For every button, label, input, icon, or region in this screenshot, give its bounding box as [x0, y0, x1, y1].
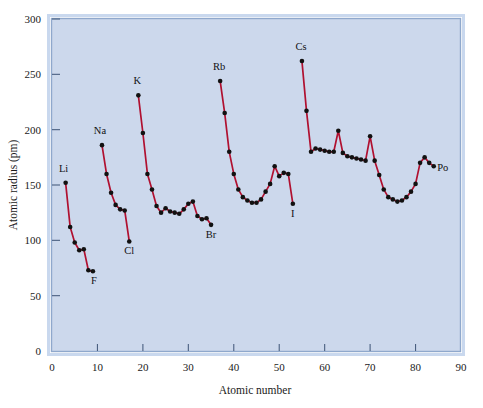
data-point — [291, 202, 296, 207]
data-point — [227, 150, 232, 155]
y-tick-label: 200 — [25, 124, 42, 136]
data-point — [186, 202, 191, 207]
data-point — [91, 269, 96, 274]
data-point — [82, 247, 87, 252]
data-point — [309, 150, 314, 155]
data-point — [286, 172, 291, 177]
element-label-Br: Br — [206, 229, 217, 240]
data-point — [327, 150, 332, 155]
data-point — [363, 158, 368, 163]
x-tick-label: 30 — [183, 361, 195, 373]
data-point — [231, 172, 236, 177]
data-point — [245, 198, 250, 203]
x-tick-label: 60 — [319, 361, 331, 373]
data-point — [377, 173, 382, 178]
data-point — [413, 182, 418, 187]
data-point — [200, 217, 205, 222]
y-tick-label: 150 — [25, 179, 42, 191]
plot-area-background — [52, 19, 461, 352]
data-point — [304, 109, 309, 114]
data-point — [204, 216, 209, 221]
data-point — [154, 204, 159, 209]
data-point — [418, 161, 423, 166]
element-label-F: F — [91, 275, 97, 286]
data-point — [118, 207, 123, 212]
data-point — [427, 161, 432, 166]
data-point — [141, 131, 146, 136]
data-point — [354, 156, 359, 161]
data-point — [177, 211, 182, 216]
element-label-Li: Li — [59, 163, 68, 174]
chart-canvas: 0102030405060708090 050100150200250300 L… — [0, 0, 483, 408]
data-point — [381, 187, 386, 192]
data-point — [191, 199, 196, 204]
data-point — [368, 134, 373, 139]
element-label-I: I — [291, 208, 295, 219]
data-point — [209, 223, 214, 228]
data-point — [281, 171, 286, 176]
data-point — [259, 197, 264, 202]
data-point — [313, 146, 318, 151]
data-point — [181, 207, 186, 212]
x-tick-label: 10 — [92, 361, 104, 373]
y-tick-label: 50 — [30, 290, 42, 302]
x-axis-title: Atomic number — [219, 384, 292, 396]
data-point — [322, 148, 327, 153]
x-tick-label: 90 — [456, 361, 468, 373]
data-point — [409, 189, 414, 194]
element-label-Cs: Cs — [295, 41, 306, 52]
data-point — [236, 187, 241, 192]
data-point — [63, 180, 68, 185]
data-point — [241, 195, 246, 200]
data-point — [250, 200, 255, 205]
y-axis-title: Atomic radius (pm) — [7, 139, 20, 230]
data-point — [331, 150, 336, 155]
data-point — [68, 225, 73, 230]
data-point — [159, 210, 164, 215]
x-tick-label: 20 — [137, 361, 149, 373]
data-point — [163, 206, 168, 211]
data-point — [136, 93, 141, 98]
data-point — [345, 154, 350, 159]
data-point — [318, 147, 323, 152]
data-point — [150, 187, 155, 192]
data-point — [272, 164, 277, 169]
data-point — [341, 151, 346, 156]
atomic-radius-chart-figure: 0102030405060708090 050100150200250300 L… — [0, 0, 483, 408]
data-point — [400, 198, 405, 203]
data-point — [268, 182, 273, 187]
data-point — [404, 195, 409, 200]
data-point — [336, 128, 341, 133]
data-point — [218, 79, 223, 84]
y-tick-label: 300 — [25, 13, 42, 25]
x-tick-label: 40 — [228, 361, 240, 373]
data-point — [86, 268, 91, 273]
y-tick-label: 250 — [25, 68, 42, 80]
data-point — [127, 239, 132, 244]
data-point — [113, 203, 118, 208]
data-point — [300, 59, 305, 64]
x-tick-label: 0 — [49, 361, 55, 373]
element-label-Rb: Rb — [213, 61, 225, 72]
data-point — [391, 197, 396, 202]
element-label-Po: Po — [437, 162, 448, 173]
data-point — [195, 214, 200, 219]
x-tick-label: 50 — [274, 361, 286, 373]
data-point — [431, 164, 436, 169]
data-point — [72, 240, 77, 245]
data-point — [395, 199, 400, 204]
data-point — [109, 190, 114, 195]
data-point — [422, 155, 427, 160]
data-point — [168, 209, 173, 214]
data-point — [100, 143, 105, 148]
data-point — [263, 189, 268, 194]
data-point — [222, 111, 227, 116]
y-tick-label: 0 — [36, 345, 42, 357]
data-point — [359, 157, 364, 162]
element-label-K: K — [134, 75, 142, 86]
data-point — [350, 155, 355, 160]
data-point — [122, 208, 127, 213]
data-point — [77, 248, 82, 253]
x-tick-label: 80 — [410, 361, 422, 373]
element-label-Cl: Cl — [124, 245, 134, 256]
